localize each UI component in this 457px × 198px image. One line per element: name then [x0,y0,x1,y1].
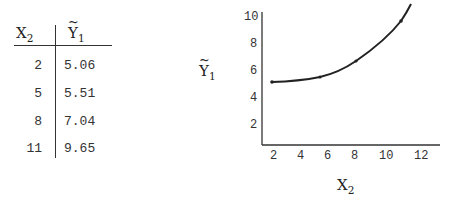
tilde-mark: ~ [199,52,209,67]
x-tick-label: 2 [270,149,277,163]
data-point [354,59,357,62]
fitted-curve [272,4,411,82]
y-axis-label-sub: 1 [209,70,216,82]
x-tick-label: 4 [297,149,304,163]
x-tick-label: 6 [324,149,331,163]
x-tick-label: 12 [414,149,428,163]
y-tick-label: 2 [250,118,257,132]
x-tick-label: 8 [351,149,358,163]
y-tick-label: 8 [250,37,257,51]
data-point [270,80,274,84]
x-axis-label-base: X [337,176,348,194]
chart-plot-area [0,0,457,198]
data-point [399,19,403,23]
data-point [318,75,321,78]
x-tick-label: 10 [379,149,393,163]
y-tick-label: 6 [250,64,257,78]
y-axis-label: ~Y1 [199,62,216,82]
x-axis-label: X2 [337,176,354,196]
x-axis-label-sub: 2 [348,184,355,196]
y-tick-label: 4 [250,91,257,105]
y-tick-label: 10 [244,10,258,24]
